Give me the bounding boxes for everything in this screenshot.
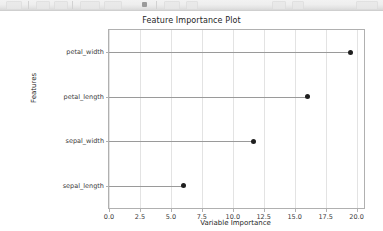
x-gridline: [202, 30, 203, 208]
x-tick-mark: [202, 209, 203, 212]
lollipop-stem: [109, 141, 254, 142]
x-gridline: [233, 30, 234, 208]
toolbar-button-6[interactable]: [164, 1, 180, 10]
x-gridline: [357, 30, 358, 208]
x-tick-mark: [264, 209, 265, 212]
toolbar-button-5[interactable]: [104, 1, 122, 10]
x-gridline: [109, 30, 110, 208]
x-tick-mark: [171, 209, 172, 212]
y-tick-mark: [106, 52, 109, 53]
y-tick-mark: [106, 141, 109, 142]
x-tick-mark: [109, 209, 110, 212]
toolbar-active-indicator[interactable]: [142, 2, 147, 7]
toolbar-button-1[interactable]: [6, 1, 22, 10]
x-tick-mark: [140, 209, 141, 212]
x-axis-label: Variable Importance: [108, 219, 363, 227]
data-point-sepal_length[interactable]: [181, 183, 186, 188]
x-gridline: [171, 30, 172, 208]
lollipop-row: petal_length: [109, 97, 364, 98]
x-tick-mark: [326, 209, 327, 212]
data-point-sepal_width[interactable]: [251, 139, 256, 144]
toolbar-button-3[interactable]: [54, 1, 68, 10]
x-gridline: [326, 30, 327, 208]
lollipop-stem: [109, 186, 183, 187]
y-axis-label: Features: [30, 73, 38, 103]
lollipop-row: sepal_width: [109, 141, 364, 142]
toolbar-separator-3: [156, 1, 157, 9]
lollipop-row: petal_width: [109, 52, 364, 53]
toolbar-button-2[interactable]: [36, 1, 50, 10]
chart-figure: Feature Importance Plot 0.02.55.07.510.0…: [0, 11, 383, 231]
toolbar-button-8[interactable]: [272, 1, 286, 10]
toolbar-separator-2: [72, 1, 73, 9]
x-tick-mark: [233, 209, 234, 212]
y-tick-mark: [106, 186, 109, 187]
chart-title: Feature Importance Plot: [0, 16, 383, 25]
toolbar-separator-1: [28, 1, 29, 9]
lollipop-stem: [109, 52, 350, 53]
x-gridline: [140, 30, 141, 208]
toolbar-button-10[interactable]: [356, 1, 378, 10]
data-point-petal_length[interactable]: [305, 94, 310, 99]
x-tick-mark: [357, 209, 358, 212]
toolbar-button-9[interactable]: [292, 1, 304, 10]
x-tick-mark: [295, 209, 296, 212]
y-tick-mark: [106, 97, 109, 98]
lollipop-stem: [109, 97, 307, 98]
x-gridline: [295, 30, 296, 208]
data-point-petal_width[interactable]: [348, 50, 353, 55]
plot-axes: 0.02.55.07.510.012.515.017.520.0sepal_le…: [108, 29, 365, 209]
x-gridline: [264, 30, 265, 208]
y-tick-label-petal_width: petal_width: [66, 48, 104, 56]
application-toolbar[interactable]: [0, 0, 383, 11]
y-tick-label-sepal_length: sepal_length: [63, 182, 104, 190]
y-tick-label-petal_length: petal_length: [64, 93, 104, 101]
toolbar-button-7[interactable]: [186, 1, 198, 10]
toolbar-button-4[interactable]: [80, 1, 100, 10]
y-tick-label-sepal_width: sepal_width: [66, 137, 104, 145]
lollipop-row: sepal_length: [109, 186, 364, 187]
